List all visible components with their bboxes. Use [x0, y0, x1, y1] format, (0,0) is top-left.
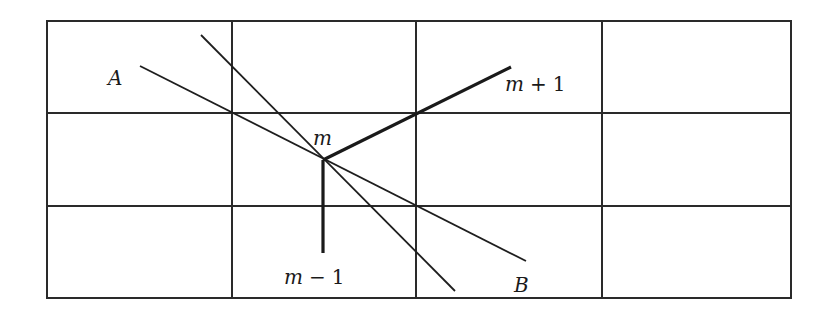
label-m-minus-1: m−1	[284, 265, 344, 289]
line-A-B	[140, 66, 526, 261]
label-A: A	[106, 66, 122, 90]
label-B: B	[513, 273, 529, 297]
grid	[47, 21, 791, 298]
label-m: m	[313, 126, 332, 150]
label-m-plus-1: m+1	[505, 72, 565, 96]
grid-diagram: A m m+1 m−1 B	[0, 0, 827, 316]
grid-border	[47, 21, 791, 298]
